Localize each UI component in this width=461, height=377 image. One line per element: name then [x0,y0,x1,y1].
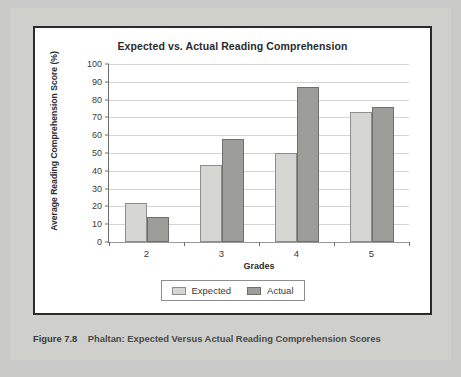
legend-label: Actual [267,285,293,296]
x-separator-tick [334,242,335,246]
y-tick-label: 50 [92,148,102,158]
x-separator-tick [184,242,185,246]
bar-actual-grade-2[interactable] [147,217,169,242]
figure-caption-text: Phaltan: Expected Versus Actual Reading … [88,333,381,344]
y-tick-label: 80 [92,95,102,105]
bar-expected-grade-2[interactable] [125,203,147,242]
bar-group: 5 [334,64,409,242]
x-separator-tick [409,242,410,246]
y-tick-label: 100 [87,59,102,69]
y-tick-label: 0 [97,237,102,247]
bar-expected-grade-5[interactable] [350,112,372,242]
figure-block: Expected vs. Actual Reading Comprehensio… [0,0,461,377]
x-tick-label: 2 [109,248,184,259]
y-tick-label: 30 [92,184,102,194]
plot-area: 0102030405060708090100 2345 [109,64,409,242]
legend-swatch-actual-icon [247,287,261,295]
x-tick-label: 3 [184,248,259,259]
bar-group-bars [259,64,334,242]
bar-expected-grade-3[interactable] [200,165,222,242]
legend-entry-expected[interactable]: Expected [171,285,231,296]
y-tick-label: 40 [92,166,102,176]
x-separator-tick [259,242,260,246]
bar-group-bars [109,64,184,242]
x-tick-label: 4 [259,248,334,259]
chart-legend: ExpectedActual [160,280,304,301]
bar-expected-grade-4[interactable] [275,153,297,242]
bar-group: 2 [109,64,184,242]
x-separator-tick [109,242,110,246]
x-axis-title: Grades [109,261,409,271]
figure-caption-number: Figure 7.8 [33,333,77,344]
legend-swatch-expected-icon [171,287,185,295]
bar-group-bars [334,64,409,242]
bar-actual-grade-4[interactable] [297,87,319,242]
legend-entry-actual[interactable]: Actual [247,285,293,296]
y-tick-label: 10 [92,219,102,229]
y-tick-label: 60 [92,130,102,140]
y-tick-label: 70 [92,112,102,122]
bar-group: 3 [184,64,259,242]
y-axis-title: Average Reading Comprehension Score (%) [49,46,59,236]
bar-group: 4 [259,64,334,242]
x-tick-label: 5 [334,248,409,259]
chart-inner: Expected vs. Actual Reading Comprehensio… [35,28,430,313]
y-tick-label: 20 [92,201,102,211]
figure-caption: Figure 7.8 Phaltan: Expected Versus Actu… [33,333,443,344]
y-tick-label: 90 [92,77,102,87]
bar-actual-grade-5[interactable] [372,107,394,242]
legend-label: Expected [191,285,231,296]
bar-actual-grade-3[interactable] [222,139,244,242]
bar-group-bars [184,64,259,242]
chart-frame: Expected vs. Actual Reading Comprehensio… [33,26,432,315]
chart-title: Expected vs. Actual Reading Comprehensio… [35,40,430,52]
